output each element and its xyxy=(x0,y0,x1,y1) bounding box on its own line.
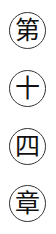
chapter-title-vertical: 第 十 四 章 xyxy=(0,0,56,234)
character-label: 第 xyxy=(15,18,40,43)
circled-character: 十 xyxy=(9,70,46,107)
character-label: 章 xyxy=(15,191,40,216)
circled-character: 第 xyxy=(9,12,46,49)
circled-character: 四 xyxy=(9,128,46,165)
character-label: 十 xyxy=(15,76,40,101)
circled-character: 章 xyxy=(9,185,46,222)
character-label: 四 xyxy=(15,134,40,159)
